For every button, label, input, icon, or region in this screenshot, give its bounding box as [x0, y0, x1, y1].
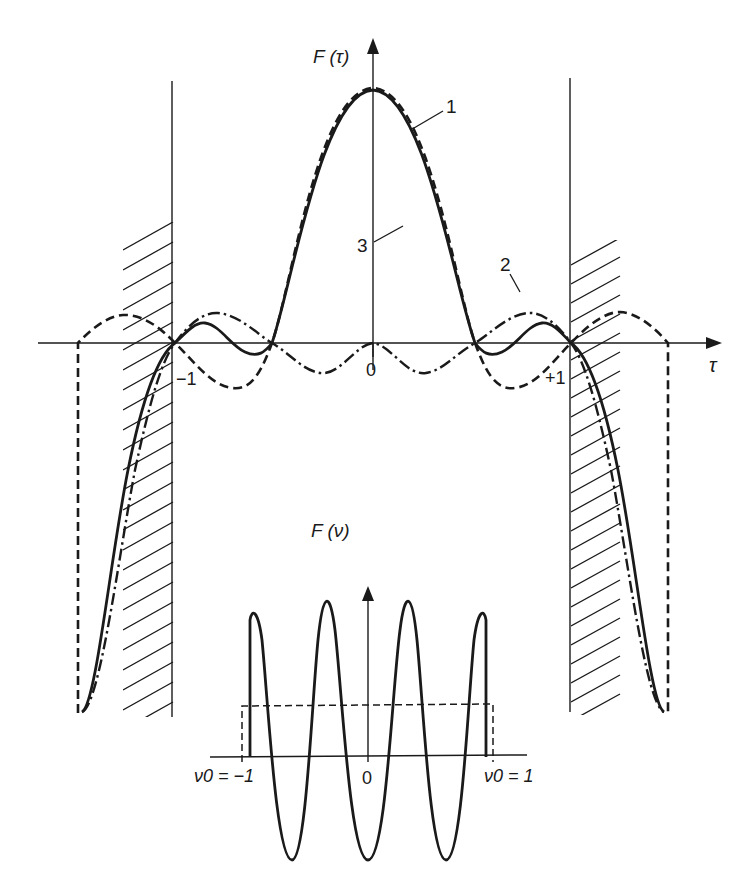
hatched-region-left: [123, 222, 173, 730]
curve-1-label: 1: [446, 96, 457, 117]
tick-label-plus-one: +1: [545, 368, 566, 388]
curve-1-leader: [414, 111, 443, 128]
nu0-left-label: ν0 = −1: [194, 766, 254, 786]
curve-2-leader: [510, 274, 520, 292]
curve-3-label: 3: [357, 235, 368, 256]
nu0-right-label: ν0 = 1: [484, 766, 534, 786]
inset-zero-label: 0: [362, 768, 372, 788]
tau-axis-label: τ: [709, 354, 718, 376]
figure-container: F (τ) τ 1 3 2 −1 0 +1 F (ν) 0 ν0 = −1 ν0…: [0, 0, 750, 894]
f-tau-axis-arrow-icon: [367, 38, 379, 54]
curve-3-leader: [374, 226, 403, 242]
inset-spectrum-plot: F (ν) 0 ν0 = −1 ν0 = 1: [194, 520, 534, 860]
tick-label-zero: 0: [366, 360, 376, 380]
f-tau-axis-label: F (τ): [313, 46, 349, 67]
f-nu-axis-arrow-icon: [362, 586, 374, 601]
tick-label-minus-one: −1: [176, 369, 197, 389]
curve-2-label: 2: [500, 254, 511, 275]
f-nu-axis-label: F (ν): [311, 520, 350, 541]
tau-axis-arrow-icon: [706, 337, 722, 349]
